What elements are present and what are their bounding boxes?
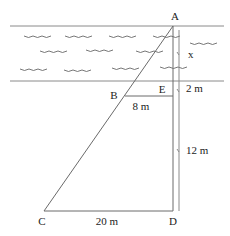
wave-icon — [136, 51, 163, 53]
wave-icon — [40, 51, 67, 53]
wave-icon — [24, 36, 51, 38]
river-width-x-label: x — [188, 48, 194, 60]
wave-icon — [64, 70, 91, 72]
wave-icon — [153, 36, 180, 38]
wave-icon — [65, 36, 92, 38]
river-width-diagram: A B E C D x 2 m 12 m 8 m 20 m — [0, 0, 230, 236]
ae-2m-label: 2 m — [186, 82, 203, 94]
point-a-label: A — [171, 10, 179, 22]
wave-icon — [112, 68, 139, 70]
point-b-label: B — [110, 89, 117, 101]
wave-icon — [190, 43, 217, 45]
point-e-label: E — [159, 83, 166, 95]
line-ac — [44, 26, 173, 211]
wave-icon — [86, 50, 113, 52]
wave-icon — [109, 36, 136, 38]
cd-20m-label: 20 m — [96, 215, 119, 227]
wave-icon — [20, 69, 47, 71]
point-d-label: D — [169, 215, 177, 227]
point-c-label: C — [38, 215, 45, 227]
ed-12m-label: 12 m — [186, 144, 209, 156]
be-8m-label: 8 m — [133, 100, 150, 112]
